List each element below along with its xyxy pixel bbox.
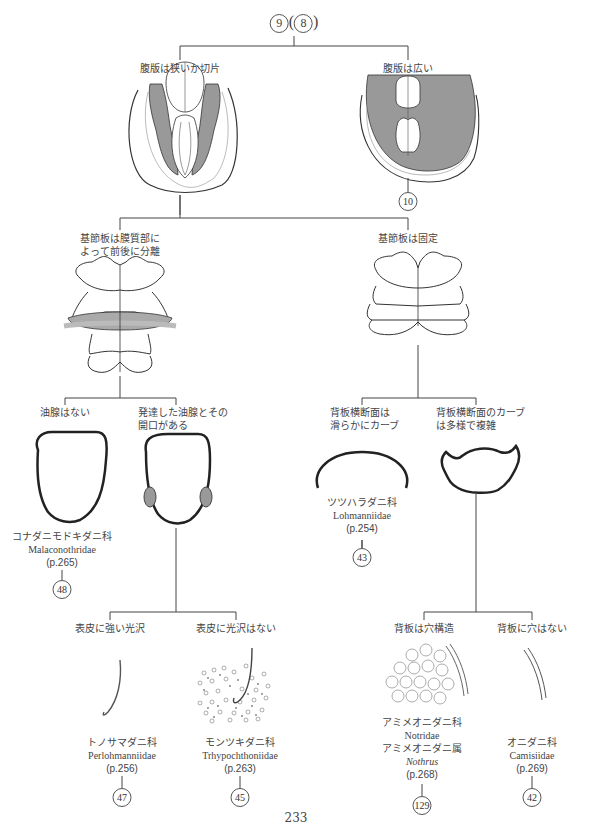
smooth-curve-label: 背板横断面は 滑らかにカーブ bbox=[330, 406, 399, 432]
plain-seta-illustration bbox=[524, 648, 546, 700]
perlohmanniidae-result: トノサマダニ科 Perlohmanniidae (p.256) bbox=[87, 736, 157, 775]
no-oil-gland-label: 油腺はない bbox=[40, 406, 90, 419]
nothridae-result: アミメオニダニ科 Notridae アミメオニダニ属 Nothrus (p.26… bbox=[382, 716, 462, 781]
goto-couplet-42[interactable]: 42 bbox=[523, 788, 542, 807]
wide-ventral-plate-illustration bbox=[360, 75, 478, 182]
non-glossy-cuticle-label: 表皮に光沢はない bbox=[196, 622, 276, 635]
goto-couplet-47[interactable]: 47 bbox=[113, 788, 132, 807]
complex-cross-section-illustration bbox=[442, 446, 519, 493]
separated-coxisternum-illustration bbox=[64, 257, 176, 373]
malaconothridae-result: コナダニモドキダニ科 Malaconothridae (p.265) bbox=[12, 530, 112, 569]
page-number: 233 bbox=[285, 812, 308, 825]
goto-couplet-43[interactable]: 43 bbox=[353, 548, 372, 567]
notogaster-with-gland-illustration bbox=[144, 434, 212, 523]
glossy-seta-illustration bbox=[103, 660, 120, 715]
narrow-ventral-plate-label: 腹版は狭いか切片 bbox=[140, 62, 220, 75]
oil-gland-label: 発達した油腺とその 開口がある bbox=[138, 406, 228, 432]
complex-curve-label: 背板横断面のカーブ は多様で複雑 bbox=[436, 406, 525, 432]
trhypochthoniidae-result: モンツキダニ科 Trhypochthoniidae (p.263) bbox=[202, 736, 278, 775]
fixed-coxisternum-label: 基節板は固定 bbox=[378, 232, 438, 245]
foveolate-label: 背板は穴構造 bbox=[394, 622, 454, 635]
no-foveolae-label: 背板に穴はない bbox=[497, 622, 567, 635]
glossy-cuticle-label: 表皮に強い光沢 bbox=[75, 622, 145, 635]
goto-couplet-48[interactable]: 48 bbox=[53, 580, 72, 599]
non-glossy-seta-illustration bbox=[233, 648, 252, 703]
lohmanniidae-result: ツツハラダニ科 Lohmanniidae (p.254) bbox=[327, 496, 397, 535]
foveolate-cuticle-illustration bbox=[386, 644, 468, 704]
fixed-coxisternum-illustration bbox=[367, 252, 469, 335]
camisiidae-result: オニダニ科 Camisiidae (p.269) bbox=[507, 736, 557, 775]
goto-couplet-10[interactable]: 10 bbox=[399, 192, 418, 211]
smooth-cross-section-illustration bbox=[317, 452, 407, 488]
wide-ventral-plate-label: 腹版は広い bbox=[383, 62, 433, 75]
node-number: 9(8) bbox=[270, 14, 319, 33]
granular-cuticle-illustration bbox=[198, 664, 270, 723]
separated-coxisternum-label: 基節板は膜質部に よって前後に分離 bbox=[80, 232, 160, 258]
goto-couplet-129[interactable]: 129 bbox=[413, 796, 432, 815]
goto-couplet-45[interactable]: 45 bbox=[231, 788, 250, 807]
narrow-ventral-plate-illustration bbox=[129, 62, 237, 193]
notogaster-no-gland-illustration bbox=[37, 432, 107, 522]
